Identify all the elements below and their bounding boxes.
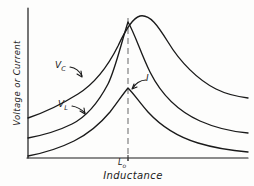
resonance-marker-subscript: o [122,162,126,169]
curve-label-vl: VL [58,99,68,112]
curve-label-current: I [146,73,149,83]
resonance-marker-label: Lo [118,158,126,169]
y-axis-label: Voltage or Current [12,28,22,138]
leader-arrow-vc [70,67,82,76]
figure-canvas: Voltage or Current Inductance Lo VC VL I [0,0,254,186]
x-axis-label: Inductance [78,170,188,181]
leader-arrow-vl [72,106,85,113]
leader-arrow-current [133,80,146,88]
resonance-plot [0,0,254,186]
curve-label-vc-subscript: C [61,65,66,73]
curve-label-vl-subscript: L [64,104,68,112]
curve-label-vc: VC [55,60,66,73]
curve-vl [28,22,248,138]
